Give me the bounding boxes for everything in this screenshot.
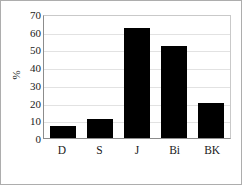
bar-slot-BK <box>193 16 230 138</box>
x-tick-J: J <box>118 145 156 157</box>
x-tick-BK: BK <box>193 145 231 157</box>
bar-series <box>44 16 230 138</box>
y-tick-50: 50 <box>19 45 41 56</box>
y-tick-20: 20 <box>19 98 41 109</box>
bar-slot-J <box>118 16 155 138</box>
y-tick-40: 40 <box>19 63 41 74</box>
x-tick-S: S <box>81 145 119 157</box>
bar-Bi <box>161 46 187 138</box>
y-tick-30: 30 <box>19 80 41 91</box>
y-tick-10: 10 <box>19 116 41 127</box>
y-tick-60: 60 <box>19 27 41 38</box>
bar-slot-Bi <box>156 16 193 138</box>
y-tick-0: 0 <box>19 134 41 145</box>
y-tick-70: 70 <box>19 10 41 21</box>
x-tick-D: D <box>43 145 81 157</box>
bar-slot-S <box>81 16 118 138</box>
y-axis-tick-labels: 706050403020100 <box>19 15 41 139</box>
x-tick-Bi: Bi <box>156 145 194 157</box>
bar-chart-figure: % 706050403020100 DSJBiBK <box>0 0 242 185</box>
bar-slot-D <box>44 16 81 138</box>
bar-D <box>50 126 76 138</box>
x-axis-tick-labels: DSJBiBK <box>43 145 231 157</box>
plot-area <box>43 15 231 139</box>
bar-S <box>87 119 113 138</box>
bar-BK <box>198 103 224 138</box>
bar-J <box>124 28 150 138</box>
